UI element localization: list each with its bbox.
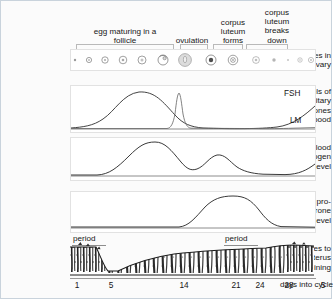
ovary-annotations: egg maturing in a follicle ovulation cor… <box>70 3 316 47</box>
progesterone-chart <box>71 192 315 232</box>
pituitary-hormones-panel <box>70 85 316 133</box>
axis-rule <box>70 278 316 279</box>
oestrogen-panel <box>70 137 316 181</box>
axis-tick-14: 14 <box>179 280 188 290</box>
annotation-corpus-luteum-breaks-down: corpus luteum breaks down <box>255 8 299 45</box>
uterus-lining-panel <box>70 241 316 279</box>
annotation-corpus-luteum-forms: corpus luteum forms <box>213 18 253 46</box>
axis-tick-21: 21 <box>231 280 240 290</box>
oestrogen-chart <box>71 138 315 180</box>
axis-tick-5: 5 <box>109 280 114 290</box>
progesterone-curve <box>71 196 315 227</box>
axis-tick-28: 28 <box>284 280 293 290</box>
progesterone-panel <box>70 191 316 233</box>
pituitary-hormones-chart <box>71 86 315 132</box>
curve-label-fsh: FSH <box>284 89 300 98</box>
axis: days into cycle 1 5 14 21 24 28 5 <box>1 280 333 294</box>
uterus-lining-illustration <box>70 241 314 279</box>
lm-curve <box>71 93 315 129</box>
oestrogen-curve <box>71 142 315 175</box>
curve-label-lm: LM <box>290 116 301 125</box>
ovary-follicle-sequence <box>71 50 315 70</box>
ovary-panel <box>70 49 316 71</box>
annotation-egg-maturing: egg maturing in a follicle <box>88 27 162 45</box>
axis-tick-1: 1 <box>75 280 80 290</box>
axis-tick-24: 24 <box>255 280 264 290</box>
fsh-curve <box>71 92 315 129</box>
axis-tick-5-next: 5 <box>321 280 326 290</box>
